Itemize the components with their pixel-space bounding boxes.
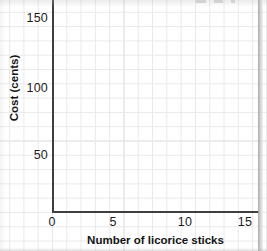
y-tick-label: 150 <box>4 11 48 25</box>
plot-area[interactable] <box>54 0 258 211</box>
y-axis-title: Cost (cents) <box>8 38 20 138</box>
x-tick-label: 10 <box>170 215 200 229</box>
licorice-cost-graph: 150 100 50 0 5 10 15 Cost (cents) Number… <box>0 0 267 251</box>
x-tick-label: 15 <box>230 215 260 229</box>
page-right-shadow <box>258 0 263 251</box>
y-axis-line <box>52 0 54 213</box>
y-tick-label: 50 <box>4 148 48 162</box>
x-tick-label: 5 <box>98 215 128 229</box>
x-axis-title: Number of licorice sticks <box>52 234 259 246</box>
x-axis-line <box>52 211 259 213</box>
x-tick-label: 0 <box>37 215 67 229</box>
